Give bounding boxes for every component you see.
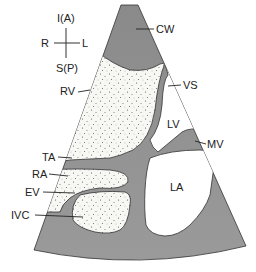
label-vs: VS bbox=[183, 79, 198, 91]
label-cw: CW bbox=[156, 23, 175, 35]
label-lv: LV bbox=[167, 118, 180, 130]
label-ta: TA bbox=[42, 151, 56, 163]
orientation-left: R bbox=[41, 37, 49, 49]
ivc-chamber bbox=[72, 191, 130, 233]
label-ra: RA bbox=[32, 168, 48, 180]
orientation-bottom: S(P) bbox=[56, 62, 78, 74]
label-la: LA bbox=[170, 181, 184, 193]
label-ev: EV bbox=[25, 186, 40, 198]
label-ivc: IVC bbox=[11, 209, 29, 221]
label-rv: RV bbox=[60, 85, 76, 97]
orientation-right: L bbox=[82, 37, 88, 49]
orientation-top: I(A) bbox=[57, 12, 75, 24]
label-mv: MV bbox=[207, 138, 224, 150]
orientation-marker: I(A) R L S(P) bbox=[41, 12, 88, 74]
echo-sector-diagram: I(A) R L S(P) CW RV VS LV MV TA RA EV IV… bbox=[0, 0, 256, 272]
